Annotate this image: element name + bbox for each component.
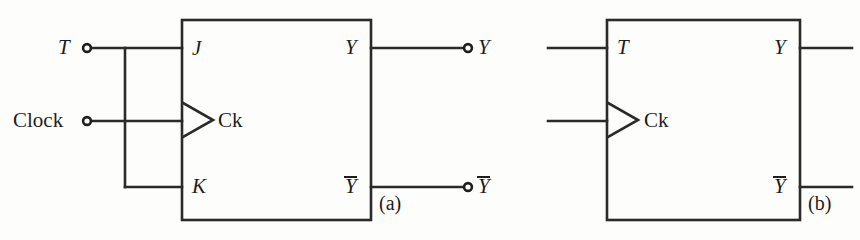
label-output-ybar-text: Y xyxy=(478,175,490,197)
caption-b: (b) xyxy=(808,193,831,213)
figure-container: T Clock J Ck K Y Y Y Y (a) T Ck Y Y (b) xyxy=(0,0,860,240)
flipflop-box-a xyxy=(182,20,371,220)
pin-label-t-b: T xyxy=(617,37,629,58)
pin-label-ck-b: Ck xyxy=(644,110,669,131)
clock-triangle-a xyxy=(183,103,213,137)
terminal-ybar-output xyxy=(464,183,472,191)
label-input-clock: Clock xyxy=(13,110,63,131)
pin-label-j: J xyxy=(192,38,201,59)
pin-label-ybar-a-text: Y xyxy=(345,175,357,197)
caption-a: (a) xyxy=(379,193,401,213)
circuit-schematic-svg xyxy=(0,0,860,240)
pin-label-y-b: Y xyxy=(774,37,786,58)
label-output-y: Y xyxy=(478,37,490,58)
pin-label-ybar-b-text: Y xyxy=(774,175,786,197)
pin-label-k: K xyxy=(192,176,206,197)
terminal-y-output xyxy=(464,44,472,52)
pin-label-ybar-a: Y xyxy=(345,175,357,197)
clock-triangle-b xyxy=(608,103,638,137)
terminal-t-input xyxy=(83,44,91,52)
pin-label-ybar-b: Y xyxy=(774,175,786,197)
label-output-ybar: Y xyxy=(478,175,490,197)
terminal-clock-input xyxy=(83,117,91,125)
pin-label-y-a: Y xyxy=(345,37,357,58)
pin-label-ck-a: Ck xyxy=(218,110,243,131)
label-input-t: T xyxy=(58,37,70,58)
